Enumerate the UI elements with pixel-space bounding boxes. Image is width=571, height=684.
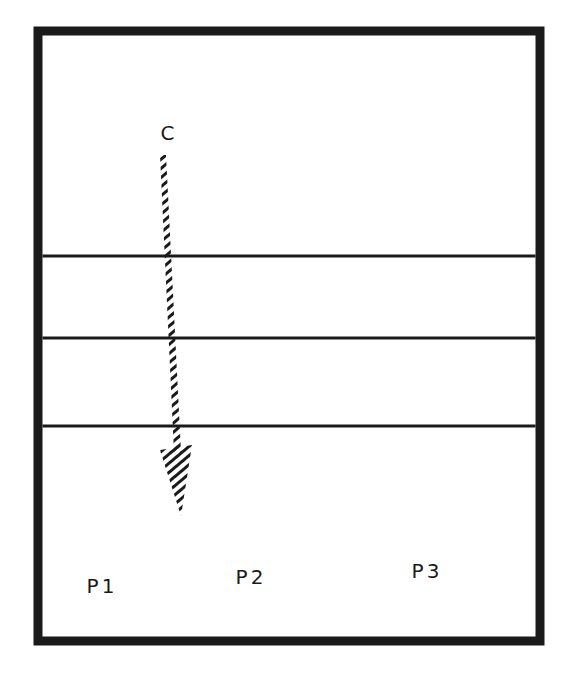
region-label-p1: P1 bbox=[87, 576, 118, 596]
region-label-p3: P3 bbox=[412, 561, 443, 581]
outer-frame bbox=[38, 31, 540, 641]
arrow-label-c: C bbox=[161, 123, 178, 143]
region-label-p2: P2 bbox=[236, 567, 267, 587]
